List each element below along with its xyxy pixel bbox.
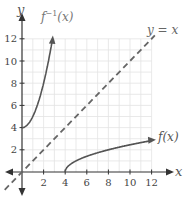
identity-line-label: y = x bbox=[146, 23, 178, 37]
x-axis-arrow-left bbox=[5, 169, 13, 176]
x-axis-arrow-right bbox=[166, 169, 174, 176]
x-tick-label: 12 bbox=[145, 177, 158, 188]
y-tick-label: 4 bbox=[11, 122, 17, 133]
f-inverse-label-tail: (x) bbox=[57, 10, 73, 24]
y-axis-label: y bbox=[16, 2, 25, 17]
y-tick-label: 8 bbox=[11, 78, 17, 89]
x-tick-label: 2 bbox=[40, 177, 46, 188]
x-tick-label: 6 bbox=[84, 177, 90, 188]
x-tick-label: 8 bbox=[105, 177, 111, 188]
x-tick-label: 10 bbox=[124, 177, 137, 188]
f-inverse-curve bbox=[22, 41, 52, 128]
chart-container: 2468101224681012 y x y = x f(x) f−1(x) bbox=[0, 0, 185, 201]
function-inverse-chart: 2468101224681012 y x y = x f(x) f−1(x) bbox=[0, 0, 185, 201]
y-tick-label: 12 bbox=[4, 33, 17, 44]
identity-line bbox=[5, 35, 155, 189]
y-axis-arrow-down bbox=[19, 188, 26, 196]
y-tick-label: 6 bbox=[11, 100, 17, 111]
axes bbox=[5, 13, 174, 196]
x-tick-label: 4 bbox=[62, 177, 68, 188]
f-inverse-label: f−1(x) bbox=[40, 9, 74, 24]
f-inverse-label-sup: −1 bbox=[45, 9, 57, 18]
tick-labels: 2468101224681012 bbox=[4, 33, 158, 188]
curves bbox=[5, 35, 156, 189]
f-label: f(x) bbox=[157, 130, 179, 144]
x-axis-label: x bbox=[175, 164, 183, 179]
y-tick-label: 10 bbox=[4, 56, 17, 67]
y-tick-label: 2 bbox=[11, 144, 17, 155]
